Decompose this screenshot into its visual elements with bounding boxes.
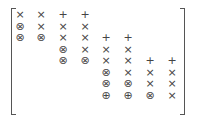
matrix-entry: ⊗ — [56, 55, 70, 67]
matrix-entry: ⊗ — [143, 90, 157, 102]
matrix-entry: ⊕ — [99, 90, 113, 102]
matrix-entry: ⊗ — [34, 32, 48, 44]
matrix-entry: × — [165, 90, 179, 102]
matrix-entry: ⊗ — [78, 55, 92, 67]
matrix-entry: ⊗ — [13, 32, 27, 44]
matrix-entry: ⊕ — [121, 90, 135, 102]
right-bracket — [180, 8, 185, 115]
